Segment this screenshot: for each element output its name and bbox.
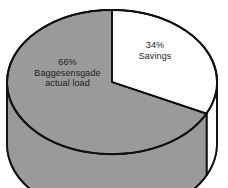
pie-chart-figure: 34% Savings 66% Baggesensgade actual loa… — [0, 0, 228, 188]
pie-chart-graphic — [0, 0, 228, 188]
